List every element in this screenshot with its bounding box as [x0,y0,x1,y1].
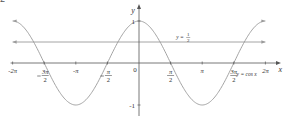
x-tick-label-numerator: π [169,68,173,75]
y-tick-label: -1 [129,102,135,110]
origin-label: 0 [133,66,137,74]
curve-right-arrow-icon [261,20,265,23]
half-line-left-arrow-icon [13,40,17,44]
half-line-right-arrow-icon [261,40,265,44]
x-tick-label-numerator: 3π [41,68,49,75]
half-line-label-denominator: 2 [187,38,190,43]
labels-layer: -2π3π2-ππ20π2π3π22π1-1xyy = cos xy =12 [8,6,282,110]
y-axis-arrow-icon [137,4,141,9]
half-line-label-numerator: 1 [187,32,190,37]
axes-layer [11,4,281,116]
curve-left-arrow-icon [13,20,17,23]
x-tick-label-denominator: 2 [44,76,47,83]
y-tick-label: 1 [132,18,136,26]
cosine-curve-label: y = cos x [236,71,258,77]
x-tick-label-denominator: 2 [107,76,110,83]
x-tick-label: -π [73,67,79,74]
y-axis-label: y [130,6,135,15]
x-tick-label-numerator: π [107,68,111,75]
cosine-graph: -2π3π2-ππ20π2π3π22π1-1xyy = cos xy =12 [0,0,285,123]
x-tick-label-denominator: 2 [232,76,235,83]
x-tick-label-denominator: 2 [169,76,172,83]
half-line-label: y = [175,34,184,40]
x-tick-label: π [201,67,205,74]
x-tick-label: 2π [262,67,269,74]
x-tick-label: -2π [8,67,17,74]
x-axis-label: x [277,65,282,74]
